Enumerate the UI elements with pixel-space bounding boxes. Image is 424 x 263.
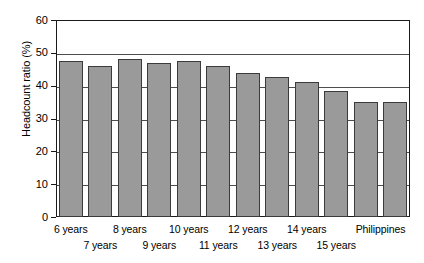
y-axis-tick-label: 10 xyxy=(8,179,48,190)
x-axis-tick-label: 9 years xyxy=(129,240,189,251)
bar xyxy=(354,102,378,217)
bar xyxy=(147,63,171,217)
bar xyxy=(206,66,230,217)
y-axis-tick-label: 40 xyxy=(8,80,48,91)
bar-chart-figure: Headcount ratio (%) 6050403020100 6 year… xyxy=(0,0,424,263)
bar-series xyxy=(56,20,410,217)
x-axis-tick-label: 12 years xyxy=(218,224,278,235)
x-axis-tick-label: 8 years xyxy=(100,224,160,235)
bar xyxy=(236,73,260,217)
bar xyxy=(295,82,319,217)
x-axis-tick-label: 13 years xyxy=(247,240,307,251)
x-axis-tick-label: 15 years xyxy=(306,240,366,251)
x-axis-tick-label: Philippines xyxy=(351,224,411,235)
y-axis-tick-label: 60 xyxy=(8,15,48,26)
bar xyxy=(118,59,142,217)
bar xyxy=(59,61,83,217)
y-axis-tick-label: 50 xyxy=(8,47,48,58)
y-axis-tick-mark xyxy=(51,217,56,218)
y-axis-tick-label: 20 xyxy=(8,146,48,157)
bar xyxy=(383,102,407,217)
bar xyxy=(265,77,289,217)
bar xyxy=(88,66,112,217)
x-axis-tick-label: 14 years xyxy=(277,224,337,235)
x-axis-tick-label: 7 years xyxy=(70,240,130,251)
y-axis-tick-label: 0 xyxy=(8,212,48,223)
x-axis-tick-label: 11 years xyxy=(188,240,248,251)
bar xyxy=(324,91,348,217)
x-axis-tick-label: 6 years xyxy=(41,224,101,235)
bar xyxy=(177,61,201,217)
x-axis-tick-label: 10 years xyxy=(159,224,219,235)
y-axis-tick-label: 30 xyxy=(8,113,48,124)
